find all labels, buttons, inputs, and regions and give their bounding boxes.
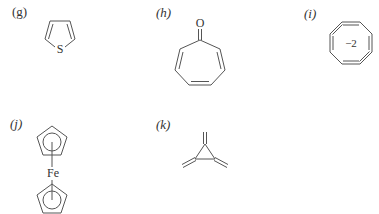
double-bond-inner [217, 52, 221, 69]
bond [45, 39, 55, 47]
sulfur-atom: S [57, 42, 64, 56]
bond [211, 70, 225, 85]
bond [175, 70, 189, 85]
label-i: (i) [304, 6, 316, 22]
label-j: (j) [10, 116, 22, 132]
exocyclic-double-bond [182, 158, 195, 165]
double-bond-inner [49, 24, 54, 39]
cot-dianion-structure: −2 [328, 20, 374, 66]
label-g: (g) [12, 4, 27, 20]
exocyclic-double-bond [215, 158, 228, 165]
double-bond-inner [179, 52, 183, 69]
label-h: (h) [156, 5, 171, 21]
oxygen-atom: O [196, 16, 205, 30]
tropone-structure: O [170, 15, 230, 95]
label-k: (k) [156, 117, 170, 133]
ring-bond [195, 144, 205, 159]
bond [200, 40, 220, 49]
ring-bond [205, 144, 215, 159]
bond [65, 39, 75, 47]
charge-label: −2 [345, 37, 357, 49]
double-bond-inner [67, 24, 72, 39]
exocyclic-double-bond [183, 161, 196, 168]
thiophene-structure: S [40, 15, 80, 55]
exocyclic-double-bond [214, 161, 227, 168]
trimethylenecyclopropane-structure [180, 132, 234, 168]
bond [180, 40, 200, 49]
ferrocene-structure: Fe [34, 124, 70, 214]
iron-atom: Fe [47, 166, 59, 180]
